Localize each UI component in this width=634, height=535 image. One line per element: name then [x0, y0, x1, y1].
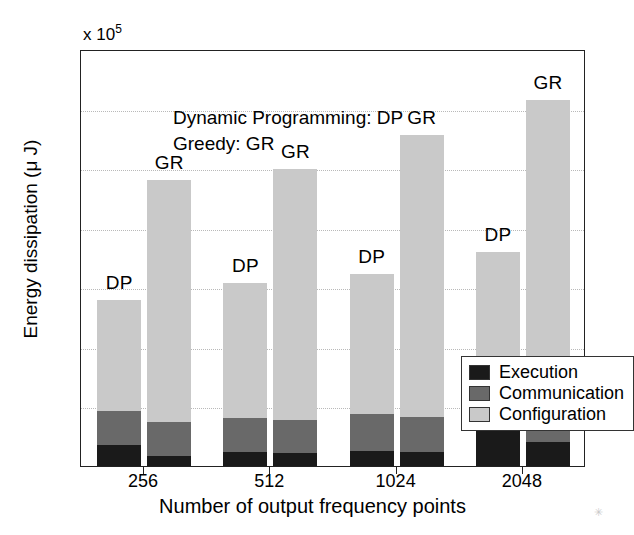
plot-area: DPGRDPGRDPGRDPGR Dynamic Programming: DP…	[80, 50, 585, 467]
x-tick-mark-2048	[522, 467, 523, 474]
bar-annotation-gr-2048: GR	[533, 72, 562, 94]
bar-annotation-dp-256: DP	[106, 272, 133, 294]
bar-annotation-gr-1024: GR	[407, 107, 436, 129]
x-axis-label: Number of output frequency points	[0, 495, 625, 518]
legend-label-communication: Communication	[499, 383, 624, 404]
legend-swatch-configuration	[469, 407, 490, 422]
legend-item-execution: Execution	[469, 362, 624, 383]
legend-label-execution: Execution	[499, 362, 578, 383]
scan-artifact: ✳	[594, 506, 603, 519]
x-tick-label-512: 512	[254, 471, 284, 492]
x-tick-label-2048: 2048	[502, 471, 542, 492]
bar-annotation-dp-512: DP	[232, 255, 259, 277]
bar-annotation-dp-2048: DP	[484, 224, 511, 246]
method-note-line-2: Greedy: GR	[173, 131, 403, 157]
bar-annotation-dp-1024: DP	[358, 246, 385, 268]
legend-item-configuration: Configuration	[469, 404, 624, 425]
x-tick-label-256: 256	[128, 471, 158, 492]
legend-swatch-communication	[469, 386, 490, 401]
x-tick-mark-512	[269, 467, 270, 474]
method-note-line-1: Dynamic Programming: DP	[173, 105, 403, 131]
x-tick-mark-1024	[396, 467, 397, 474]
legend-swatch-execution	[469, 365, 490, 380]
legend-label-configuration: Configuration	[499, 404, 606, 425]
x-tick-label-1024: 1024	[376, 471, 416, 492]
x-tick-mark-256	[143, 467, 144, 474]
legend-item-communication: Communication	[469, 383, 624, 404]
legend: ExecutionCommunicationConfiguration	[461, 356, 634, 431]
method-note: Dynamic Programming: DP Greedy: GR	[173, 105, 403, 157]
